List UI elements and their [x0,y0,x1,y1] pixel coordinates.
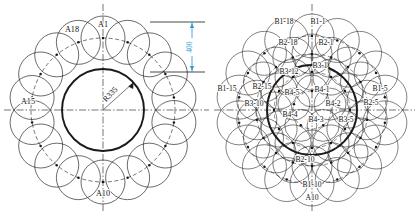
ring-circle-center [77,41,80,44]
ring-circle-center-B2 [256,118,259,121]
label-b2-15: B2-15 [253,82,272,91]
ring-circle-center-B3 [330,142,333,145]
ring-circle-center-B3 [330,76,333,79]
ring-circle-center [148,164,151,167]
label-a10: A10 [96,189,110,198]
ring-circle-center-B3 [311,71,314,74]
ring-circle-center-B3 [278,128,281,131]
label-b4-3: B4-3 [308,115,323,124]
label-a10: A10 [305,193,318,202]
label-a1: A1 [98,20,108,29]
ring-circle-center-B1 [238,122,241,125]
ring-circle-center-B1 [375,146,378,149]
ring-circle-center-B1 [384,96,387,99]
ring-circle-center-B4 [311,90,314,93]
ring-circle-center-B1 [247,72,250,75]
label-b2-10: B2-10 [296,155,315,164]
ring-circle-center [31,121,34,124]
ring-circle-center-B1 [238,96,241,99]
ring-circle-center-B1 [285,178,288,181]
ring-circle-center-B1 [247,146,250,149]
ring-circle-center-B1 [375,72,378,75]
ring-circle-center-B1 [311,35,314,38]
ring-circle-center [126,41,129,44]
ring-circle-center-B3 [311,147,314,150]
ring-circle-center [55,54,58,57]
ring-circle-center [173,121,176,124]
label-b4-4: B4-4 [282,110,297,119]
ring-circle-center-B4 [293,103,296,106]
dim-arrowhead-top [190,23,194,28]
ring-circle-center-B1 [336,178,339,181]
ring-circle-center-B4 [322,124,325,127]
label-b4-5: B4-5 [284,88,299,97]
left-vertical-dimension: 400 [150,22,205,72]
label-b1-1: B1-1 [310,17,325,26]
ring-circle-center-B1 [263,52,266,55]
ring-circle-center-B2 [292,56,295,59]
engineering-diagram-pair: R335400A1A18A15A10B1-18B1-1B2-18B2-1B3-1… [0,0,417,217]
label-b3-10: B3-10 [245,99,264,108]
ring-circle-center-B3 [344,128,347,131]
ring-circle-center-B1 [263,165,266,168]
right-diagram: B1-18B1-1B2-18B2-1B3-1B3-12B1-15B2-15B1-… [214,4,415,213]
radius-dimension-label: R335 [101,85,120,104]
ring-circle-center [102,181,105,184]
label-b3-1: B3-1 [312,61,327,70]
label-b1-5: B1-5 [372,84,387,93]
ring-circle-center [55,164,58,167]
ring-circle-center-B3 [344,90,347,93]
ring-circle-center [126,176,129,179]
label-b2-18: B2-18 [279,38,298,47]
ring-circle-center-B1 [358,165,361,168]
ring-circle-center-B3 [273,109,276,112]
label-a18: A18 [65,25,79,34]
ring-circle-center [164,73,167,76]
ring-circle-center-B1 [336,39,339,42]
label-b2-5: B2-5 [363,98,378,107]
label-b4-1: B4-1 [314,85,329,94]
label-b1-10: B1-10 [303,180,322,189]
ring-circle-center-B3 [292,142,295,145]
ring-circle-center-B1 [358,52,361,55]
ring-circle-center-B3 [349,109,352,112]
ring-circle-center [39,145,42,148]
ring-circle-center-B3 [292,76,295,79]
label-b1-15: B1-15 [218,84,237,93]
left-radius-dimension: R335 [101,82,137,110]
ring-circle-center [102,37,105,40]
ring-circle-center [164,145,167,148]
ring-circle-center-B4 [300,124,303,127]
label-b3-5: B3-5 [338,115,353,124]
ring-circle-center-B3 [278,90,281,93]
ring-circle-center [77,176,80,179]
label-a15: A15 [21,97,35,106]
figure-root: R335400A1A18A15A10B1-18B1-1B2-18B2-1B3-1… [0,0,417,217]
label-b4-2: B4-2 [325,99,340,108]
label-b2-1: B2-1 [318,38,333,47]
ring-circle-center-B1 [384,122,387,125]
ring-circle-center [148,54,151,57]
label-b1-18: B1-18 [275,17,294,26]
dim-arrowhead-bottom [190,66,194,71]
ring-circle-center [173,96,176,99]
ring-circle-center [39,73,42,76]
left-diagram: R335400A1A18A15A10 [4,4,209,213]
vertical-dimension-label: 400 [185,41,194,53]
label-b3-12: B3-12 [280,67,299,76]
